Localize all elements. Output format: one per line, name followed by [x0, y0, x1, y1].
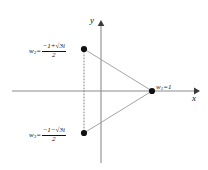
point-label-w3-fraction: −1−√3i 2	[42, 127, 66, 143]
x-axis-label: x	[192, 94, 196, 103]
point-label-w2-fraction: −1+√3i 2	[42, 43, 66, 59]
point-label-w3-equals: =	[37, 132, 41, 139]
point-w3	[81, 130, 87, 136]
point-label-w2-var: w2	[29, 48, 36, 55]
figure-canvas	[0, 0, 208, 170]
point-label-w2-denominator: 2	[52, 52, 56, 60]
point-label-w1: w1=1	[156, 84, 171, 91]
edge-w3-w1	[84, 91, 152, 133]
point-label-w2: w2= −1+√3i 2	[29, 43, 66, 59]
y-axis-label: y	[90, 16, 94, 25]
edge-w2-w1	[84, 49, 152, 91]
point-w2	[81, 46, 87, 52]
point-label-w3: w3= −1−√3i 2	[29, 127, 66, 143]
point-w1	[149, 88, 155, 94]
point-label-w3-denominator: 2	[52, 136, 56, 144]
point-label-w1-value: 1	[168, 83, 172, 91]
point-label-w2-equals: =	[37, 48, 41, 55]
point-label-w3-var: w3	[29, 132, 36, 139]
y-axis-arrowhead	[98, 20, 105, 26]
complex-plane-figure: y x w2= −1+√3i 2 w3= −1−√3i 2 w1=1	[0, 0, 208, 170]
